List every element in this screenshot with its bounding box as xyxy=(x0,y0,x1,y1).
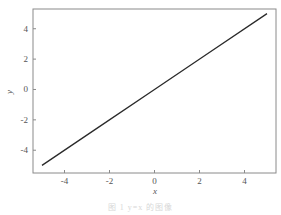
y-tick-label: 2 xyxy=(24,54,29,64)
x-tick-label: 4 xyxy=(242,176,247,186)
x-axis-label: x xyxy=(152,186,157,196)
x-tick-label: 2 xyxy=(197,176,202,186)
data-series xyxy=(42,14,267,166)
y-tick-label: 0 xyxy=(24,84,29,94)
y-tick-label: 4 xyxy=(24,24,29,34)
y-tick-label: -2 xyxy=(21,115,29,125)
y-axis-label: y xyxy=(4,90,14,95)
y-axis-ticks: -4-2024 xyxy=(21,24,37,155)
series-line xyxy=(42,14,267,166)
plot-frame xyxy=(33,9,276,173)
x-axis-ticks: -4-2024 xyxy=(61,170,248,186)
x-tick-label: 0 xyxy=(152,176,157,186)
figure-caption: 图 1 y=x 的图像 xyxy=(0,201,281,212)
x-tick-label: -4 xyxy=(61,176,69,186)
x-tick-label: -2 xyxy=(106,176,114,186)
line-chart: -4-2024 -4-2024 x y xyxy=(0,0,281,215)
y-tick-label: -4 xyxy=(21,145,29,155)
